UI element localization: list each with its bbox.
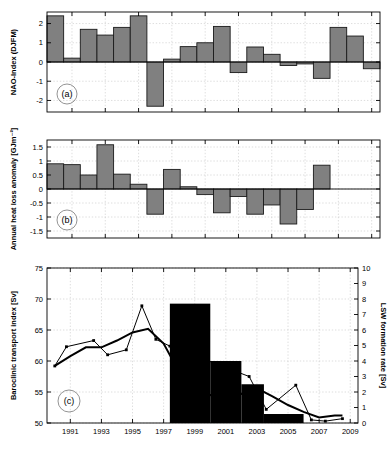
bar [347, 36, 364, 62]
bar [47, 16, 64, 62]
bar [80, 29, 97, 62]
bar [263, 189, 280, 205]
x-tick-label: 1995 [124, 427, 141, 436]
x-tick-label: 2001 [217, 427, 234, 436]
x-tick-label: 2003 [249, 427, 266, 436]
y-tick-label-right: 8 [362, 295, 366, 304]
bar [280, 62, 297, 65]
y-tick-label-right: 10 [362, 264, 370, 273]
y-tick-label-right: 9 [362, 279, 366, 288]
x-tick-label: 2007 [311, 427, 328, 436]
bar [64, 165, 81, 189]
bar [330, 27, 347, 62]
series-marker [65, 345, 68, 348]
y-tick-label-right: 1 [362, 403, 366, 412]
y-tick-label: 70 [35, 295, 43, 304]
panel-a: -2-1012NAO-Index (DJFM)(a) [9, 12, 380, 112]
series-marker [265, 408, 268, 411]
panel-c: 5055606570750123456789101991199319951997… [9, 264, 388, 436]
bar [313, 62, 330, 78]
y-tick-label: -2 [36, 96, 43, 105]
x-tick-label: 1991 [62, 427, 79, 436]
bar [363, 62, 380, 69]
bar [64, 58, 81, 62]
bar [147, 62, 164, 106]
y-tick-label: 65 [35, 326, 43, 335]
y-tick-label: -1 [36, 77, 43, 86]
bar [280, 189, 297, 224]
series-marker [324, 420, 327, 423]
x-tick-label: 2005 [280, 427, 297, 436]
series-marker [106, 353, 109, 356]
lsw-bar [264, 414, 304, 423]
bar [263, 54, 280, 62]
panel-tag-label: (c) [64, 396, 75, 406]
y-tick-label: -0.5 [30, 199, 43, 208]
bar [197, 189, 214, 195]
series-marker [248, 375, 251, 378]
panel-tag-label: (b) [62, 215, 73, 225]
bar [230, 62, 247, 73]
series-marker [168, 345, 171, 348]
y-axis-label-right: LSW formation rate [Sv] [379, 303, 388, 389]
bar [164, 169, 181, 189]
y-tick-label: 1 [39, 38, 43, 47]
bar [97, 145, 114, 189]
bar [147, 189, 164, 214]
y-tick-label: 0 [39, 58, 43, 67]
y-tick-label-right: 6 [362, 326, 366, 335]
y-tick-label: 0.5 [33, 171, 43, 180]
y-tick-label: -1.5 [30, 227, 43, 236]
y-tick-label: 60 [35, 357, 43, 366]
y-tick-label: 50 [35, 419, 43, 428]
x-tick-label: 2009 [342, 427, 359, 436]
bar [114, 27, 131, 62]
y-tick-label-right: 7 [362, 310, 366, 319]
bar [214, 189, 231, 213]
panel-b: -1.5-1-0.500.511.5Annual heat loss anoma… [9, 127, 380, 250]
y-tick-label-right: 2 [362, 388, 366, 397]
bar [247, 47, 264, 62]
y-tick-label: 55 [35, 388, 43, 397]
bar [80, 175, 97, 189]
series-marker [341, 417, 344, 420]
series-marker [125, 348, 128, 351]
series-marker [294, 384, 297, 387]
y-tick-label: -1 [36, 213, 43, 222]
bar [180, 47, 197, 62]
bar [130, 184, 147, 189]
bar [130, 16, 147, 62]
bar [230, 189, 247, 197]
figure-canvas: -2-1012NAO-Index (DJFM)(a)-1.5-1-0.500.5… [0, 0, 390, 450]
x-tick-label: 1993 [93, 427, 110, 436]
y-tick-label-right: 0 [362, 419, 366, 428]
y-axis-label: NAO-Index (DJFM) [9, 28, 18, 95]
series-marker [310, 419, 313, 422]
series-marker [92, 339, 95, 342]
bar [297, 189, 314, 209]
y-axis-label: Annual heat loss anomaly [GJm⁻²] [9, 127, 18, 250]
bar [114, 174, 131, 189]
y-tick-label: 75 [35, 264, 43, 273]
bar [247, 189, 264, 214]
bar [47, 164, 64, 189]
y-tick-label: 1 [39, 157, 43, 166]
panel-tag-label: (a) [62, 89, 73, 99]
figure-container: -2-1012NAO-Index (DJFM)(a)-1.5-1-0.500.5… [0, 0, 390, 450]
bar [313, 165, 330, 189]
series-marker [140, 304, 143, 307]
bar [97, 35, 114, 62]
lsw-bar [170, 304, 210, 423]
y-tick-label-right: 4 [362, 357, 366, 366]
y-tick-label-right: 3 [362, 372, 366, 381]
y-tick-label-right: 5 [362, 341, 366, 350]
y-tick-label: 2 [39, 19, 43, 28]
y-tick-label: 1.5 [33, 143, 43, 152]
x-tick-label: 1999 [186, 427, 203, 436]
y-tick-label: 0 [39, 185, 43, 194]
bar [214, 26, 231, 62]
bar [197, 43, 214, 62]
y-axis-label: Baroclinic transport index [Sv] [9, 290, 18, 400]
x-tick-label: 1997 [155, 427, 172, 436]
